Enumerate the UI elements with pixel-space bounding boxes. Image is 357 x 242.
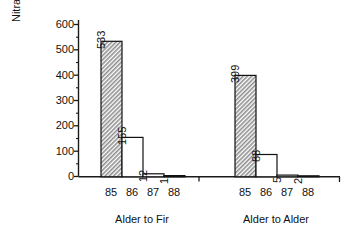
x-tick-label-group2-88: 88: [302, 187, 314, 198]
group-label-alder-to-fir: Alder to Fir: [115, 213, 169, 225]
x-tick-label-group1-85: 85: [105, 187, 117, 198]
bar-group1-85: [101, 41, 122, 177]
bar-value-group1-86: 155: [117, 127, 128, 145]
bar-value-group2-86: 88: [251, 150, 262, 162]
x-tick-label-group1-88: 88: [168, 187, 180, 198]
x-tick-label-group2-86: 86: [260, 187, 272, 198]
group-label-alder-to-alder: Alder to Alder: [243, 213, 309, 225]
x-tick-label-group1-87: 87: [147, 187, 159, 198]
bar-group2-88: [298, 176, 319, 177]
bar-value-group1-87: 12: [138, 170, 149, 182]
bar-value-group1-85: 533: [96, 31, 107, 49]
x-tick-label-group2-85: 85: [239, 187, 251, 198]
bar-value-group2-85: 399: [230, 65, 241, 83]
x-tick-label-group1-86: 86: [126, 187, 138, 198]
nitrate-bar-chart: Nitrate (µmol/L) 0 100 200 300 400 500 6…: [0, 0, 357, 242]
x-tick-label-group2-87: 87: [281, 187, 293, 198]
plot-area: [0, 0, 357, 242]
bar-value-group2-87: 5: [272, 177, 283, 183]
bar-group1-88: [164, 176, 185, 177]
bar-value-group2-88: 2: [293, 178, 304, 184]
bar-value-group1-88: 1: [159, 178, 170, 184]
